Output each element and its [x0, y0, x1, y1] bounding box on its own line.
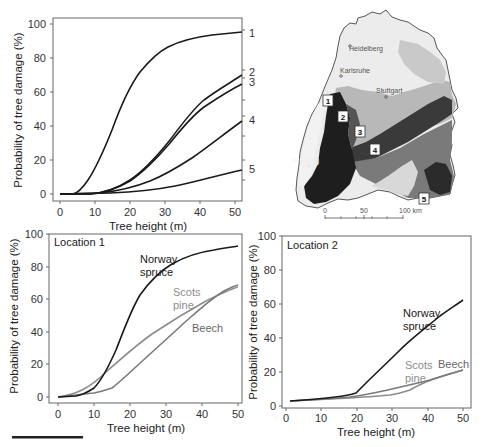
y-tick-label: 100 — [25, 228, 43, 240]
x-tick-label: 20 — [124, 408, 136, 420]
x-tick-label: 40 — [196, 408, 208, 420]
y-tick-label: 100 — [28, 18, 46, 30]
svg-text:1: 1 — [326, 97, 331, 106]
svg-text:2: 2 — [341, 113, 346, 122]
svg-text:50: 50 — [360, 207, 368, 214]
label-norway-spruce: spruce — [140, 266, 173, 278]
location2-chart: 0 20 40 60 80 100 0 10 20 30 40 50 Tree … — [247, 230, 471, 438]
y-tick-label: 20 — [31, 358, 43, 370]
x-tick-label: 30 — [159, 206, 171, 218]
map-baden-wuerttemberg: Heidelberg Karlsruhe Stuttgart Freiburg … — [293, 10, 458, 219]
city-label: Stuttgart — [376, 87, 403, 95]
svg-text:4: 4 — [373, 146, 378, 155]
city-label: Heidelberg — [349, 45, 383, 53]
curve-4 — [60, 121, 242, 194]
x-tick-label: 10 — [315, 412, 327, 424]
svg-text:5: 5 — [422, 195, 427, 204]
y-axis-title: Probability of tree damage (%) — [12, 32, 24, 187]
x-tick-label: 0 — [55, 408, 61, 420]
curve-scots-pine — [58, 287, 238, 397]
x-tick-label: 20 — [124, 206, 136, 218]
y-tick-label: 40 — [34, 120, 46, 132]
x-tick-label: 30 — [386, 412, 398, 424]
plot-frame — [53, 18, 242, 201]
svg-text:3: 3 — [358, 128, 363, 137]
figure: 0 20 40 60 80 100 0 10 20 30 40 50 Tree … — [0, 0, 483, 447]
label-beech: Beech — [438, 358, 469, 370]
x-axis-title: Tree height (m) — [107, 422, 185, 434]
curve-3 — [60, 84, 242, 194]
x-tick-label: 20 — [351, 412, 363, 424]
x-tick-label: 50 — [457, 412, 469, 424]
y-tick-label: 80 — [31, 261, 43, 273]
city-label: Freiburg — [293, 157, 319, 165]
y-tick-label: 0 — [270, 400, 276, 412]
svg-text:0: 0 — [323, 207, 327, 214]
x-axis-title: Tree height (m) — [109, 220, 187, 232]
x-tick-label: 40 — [422, 412, 434, 424]
overview-chart: 0 20 40 60 80 100 0 10 20 30 40 50 Tree … — [12, 18, 255, 232]
y-tick-label: 60 — [264, 298, 276, 310]
location-marker-3: 3 — [355, 126, 365, 137]
label-scots-pine: pine — [405, 372, 426, 384]
x-tick-label: 0 — [57, 206, 63, 218]
y-axis-title: Probability of tree damage (%) — [247, 244, 259, 399]
label-norway-spruce: Norway — [403, 307, 441, 319]
label-scots-pine: Scots — [405, 359, 433, 371]
y-tick-label: 20 — [264, 366, 276, 378]
panel-title: Location 1 — [54, 236, 105, 248]
y-tick-label: 80 — [34, 52, 46, 64]
curve-1 — [60, 32, 242, 194]
x-axis-title: Tree height (m) — [337, 426, 415, 438]
curve-scots-pine — [290, 370, 463, 401]
x-tick-label: 0 — [283, 412, 289, 424]
y-tick-label: 40 — [264, 332, 276, 344]
city-label: Karlsruhe — [340, 67, 370, 74]
location-marker-2: 2 — [338, 111, 348, 122]
label-norway-spruce: spruce — [403, 320, 436, 332]
location1-chart: 0 20 40 60 80 100 0 10 20 30 40 50 Tree … — [8, 228, 244, 434]
overview-curves — [60, 32, 242, 194]
label-scots-pine: pine — [173, 299, 194, 311]
x-tick-label: 40 — [194, 206, 206, 218]
label-norway-spruce: Norway — [140, 253, 178, 265]
curve-label: 1 — [249, 27, 255, 39]
y-tick-label: 0 — [37, 391, 43, 403]
y-tick-label: 60 — [34, 86, 46, 98]
y-axis-title: Probability of tree damage (%) — [8, 238, 20, 393]
y-tick-label: 40 — [31, 326, 43, 338]
y-tick-label: 20 — [34, 154, 46, 166]
y-tick-label: 80 — [264, 264, 276, 276]
curve-label: 3 — [249, 76, 255, 88]
scale-bar — [12, 436, 83, 439]
location-marker-1: 1 — [323, 95, 333, 106]
label-beech: Beech — [192, 322, 223, 334]
x-tick-label: 50 — [232, 408, 244, 420]
x-tick-label: 10 — [88, 408, 100, 420]
plot-frame — [282, 236, 471, 408]
svg-text:100 km: 100 km — [399, 207, 422, 214]
x-tick-label: 50 — [229, 206, 241, 218]
y-tick-label: 0 — [40, 188, 46, 200]
curve-label: 4 — [249, 114, 255, 126]
curve-label: 5 — [249, 163, 255, 175]
map-scale-bar: 0 50 100 km — [323, 207, 422, 219]
location-marker-5: 5 — [419, 193, 429, 204]
curve-beech — [58, 285, 238, 397]
y-tick-label: 100 — [258, 230, 276, 242]
label-scots-pine: Scots — [173, 286, 201, 298]
y-tick-label: 60 — [31, 293, 43, 305]
x-tick-label: 10 — [89, 206, 101, 218]
x-tick-label: 30 — [160, 408, 172, 420]
panel-title: Location 2 — [287, 239, 338, 251]
location-marker-4: 4 — [370, 144, 380, 155]
